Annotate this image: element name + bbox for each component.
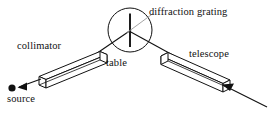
incoming-ray	[18, 79, 42, 91]
label-telescope: telescope	[189, 48, 229, 59]
label-source: source	[7, 93, 35, 104]
label-diffraction-grating: diffraction grating	[149, 6, 227, 17]
label-collimator: collimator	[17, 40, 61, 51]
spectrometer-diagram	[0, 0, 274, 114]
source-point	[8, 84, 15, 91]
collimator-tube	[39, 52, 107, 89]
label-table: table	[106, 57, 127, 68]
figure-canvas: collimator table source diffraction grat…	[0, 0, 274, 114]
exit-ray	[222, 84, 267, 108]
